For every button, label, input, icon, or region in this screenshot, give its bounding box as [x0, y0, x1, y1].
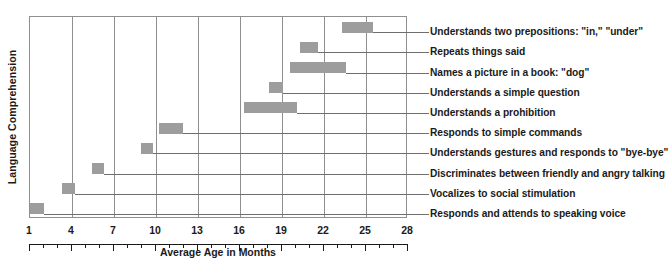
gridline-month-19: [282, 17, 283, 217]
x-tick-major-28: [407, 244, 408, 251]
bar-milestone-4: [269, 82, 283, 93]
gridline-month-22: [324, 17, 325, 217]
gridline-month-25: [366, 17, 367, 217]
gridline-month-16: [240, 17, 241, 217]
bar-milestone-1: [342, 22, 373, 33]
y-axis-title: Language Comprehension: [6, 50, 18, 185]
gridline-month-7: [114, 17, 115, 217]
x-axis-title: Average Age in Months: [29, 246, 407, 258]
leader-line-8: [104, 174, 429, 175]
x-tick-label-19: 19: [275, 224, 287, 236]
x-tick-label-22: 22: [317, 224, 329, 236]
bar-milestone-3: [290, 62, 346, 73]
leader-line-2: [318, 52, 429, 53]
plot-area: [29, 16, 407, 218]
bar-milestone-10: [30, 203, 44, 214]
milestone-label: Understands a prohibition: [430, 106, 556, 117]
bar-milestone-9: [62, 183, 75, 194]
language-comprehension-chart: Language Comprehension 14710131619222528…: [0, 0, 671, 260]
milestone-label: Responds to simple commands: [430, 127, 582, 138]
leader-line-1: [373, 32, 429, 33]
leader-line-3: [346, 73, 429, 74]
x-tick-label-1: 1: [26, 224, 32, 236]
milestone-label: Repeats things said: [430, 46, 525, 57]
bar-milestone-5: [244, 102, 297, 113]
x-tick-label-10: 10: [149, 224, 161, 236]
x-tick-label-16: 16: [233, 224, 245, 236]
milestone-label-list: Understands two prepositions: "in," "und…: [430, 16, 671, 226]
milestone-label: Vocalizes to social stimulation: [430, 187, 575, 198]
milestone-label: Names a picture in a book: "dog": [430, 66, 589, 77]
leader-line-10: [44, 214, 429, 215]
x-tick-label-25: 25: [359, 224, 371, 236]
bar-milestone-6: [159, 123, 183, 134]
bar-milestone-2: [300, 42, 318, 53]
x-tick-label-28: 28: [401, 224, 413, 236]
milestone-label: Understands a simple question: [430, 86, 580, 97]
leader-line-9: [75, 194, 429, 195]
leader-line-6: [183, 133, 429, 134]
milestone-label: Understands two prepositions: "in," "und…: [430, 26, 643, 37]
x-tick-label-7: 7: [110, 224, 116, 236]
leader-line-7: [153, 153, 429, 154]
y-axis-title-container: Language Comprehension: [0, 16, 24, 218]
gridline-month-13: [198, 17, 199, 217]
leader-line-5: [297, 113, 429, 114]
bar-milestone-7: [141, 143, 154, 154]
x-tick-label-4: 4: [68, 224, 74, 236]
gridline-month-10: [156, 17, 157, 217]
bar-milestone-8: [92, 163, 105, 174]
milestone-label: Responds and attends to speaking voice: [430, 207, 626, 218]
milestone-label: Discriminates between friendly and angry…: [430, 167, 665, 178]
leader-line-4: [283, 93, 429, 94]
x-tick-label-13: 13: [191, 224, 203, 236]
milestone-label: Understands gestures and responds to "by…: [430, 147, 668, 158]
